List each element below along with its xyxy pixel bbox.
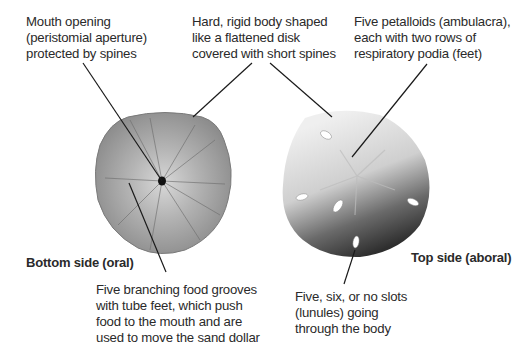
bottom-sand-dollar <box>95 113 231 254</box>
leader-body-bottom <box>193 63 252 117</box>
callout-lunules: Five, six, or no slots (lunules) going t… <box>295 289 407 337</box>
callout-food-grooves: Five branching food grooves with tube fe… <box>96 282 260 346</box>
callout-body: Hard, rigid body shaped like a flattened… <box>192 14 336 62</box>
caption-bottom-side: Bottom side (oral) <box>26 255 134 270</box>
leader-body-top <box>270 63 332 117</box>
callout-mouth: Mouth opening (peristomial aperture) pro… <box>26 14 147 62</box>
caption-top-side: Top side (aboral) <box>411 250 511 265</box>
top-sand-dollar <box>283 111 430 257</box>
callout-petalloids: Five petalloids (ambulacra), each with t… <box>354 14 510 62</box>
